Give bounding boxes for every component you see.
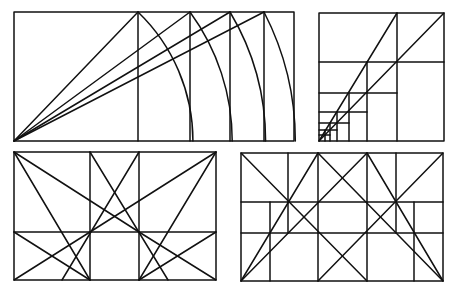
background	[0, 0, 458, 285]
geometric-proportion-diagram	[0, 0, 458, 285]
